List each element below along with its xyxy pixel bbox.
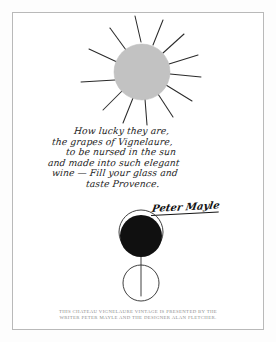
caption-block: THIS CHATEAU VIGNELAURE VINTAGE IS PRESE… [22, 309, 254, 321]
handwritten-verse: How lucky they are, the grapes of Vignel… [48, 126, 228, 190]
caption-line: WRITER PETER MAYLE AND THE DESIGNER ALAN… [22, 315, 254, 321]
poster-canvas: How lucky they are, the grapes of Vignel… [0, 0, 276, 342]
sun-icon [74, 12, 208, 130]
verse-line: taste Provence. [85, 179, 228, 190]
wine-glass-icon [104, 204, 178, 302]
verse-line: How lucky they are, [73, 126, 228, 137]
